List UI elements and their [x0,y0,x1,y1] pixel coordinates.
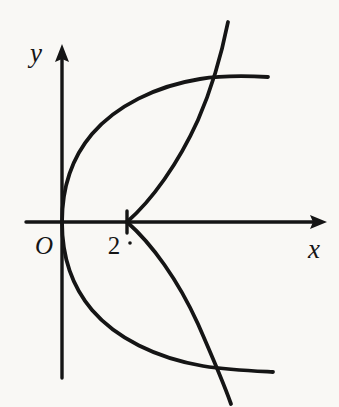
curve-steep-lower [127,222,231,404]
origin-label: O [35,232,53,259]
y-axis-label: y [27,38,42,68]
ink-speck [128,241,132,245]
graph-figure: y x O 2 [0,0,339,407]
curve-cusp-lower [62,222,273,372]
x-tick-label-2: 2 [108,232,121,259]
x-axis-label: x [307,234,320,264]
curve-steep-upper [127,22,228,222]
curve-cusp-upper [62,76,268,222]
